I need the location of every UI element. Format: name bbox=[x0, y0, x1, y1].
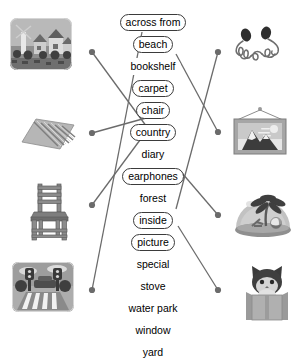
word-item-forest[interactable]: forest bbox=[134, 190, 172, 207]
framed-picture-photo[interactable] bbox=[228, 106, 292, 158]
word-item-across-from[interactable]: across from bbox=[120, 14, 187, 31]
crosswalk-photo[interactable] bbox=[12, 262, 74, 312]
word-item-picture[interactable]: picture bbox=[131, 234, 175, 251]
connector-dot-left-4[interactable] bbox=[89, 287, 95, 293]
cat-in-box-photo[interactable] bbox=[240, 262, 296, 324]
word-item-special[interactable]: special bbox=[131, 256, 176, 273]
connector-dot-left-3[interactable] bbox=[89, 202, 95, 208]
word-item-stove[interactable]: stove bbox=[134, 278, 171, 295]
word-list: across from beach bookshelf carpet chair… bbox=[103, 14, 203, 362]
connector-dot-left-1[interactable] bbox=[89, 49, 95, 55]
word-item-yard[interactable]: yard bbox=[137, 344, 169, 361]
connector-dot-right-2[interactable] bbox=[215, 129, 221, 135]
word-item-chair[interactable]: chair bbox=[136, 102, 171, 119]
country-village-photo[interactable] bbox=[10, 18, 72, 70]
word-item-inside[interactable]: inside bbox=[133, 212, 172, 229]
snow-globe-beach-photo[interactable] bbox=[232, 186, 294, 242]
connector-dot-right-4[interactable] bbox=[215, 287, 221, 293]
word-item-window[interactable]: window bbox=[129, 322, 176, 339]
word-item-carpet[interactable]: carpet bbox=[132, 80, 173, 97]
connector-dot-left-2[interactable] bbox=[89, 130, 95, 136]
word-item-water-park[interactable]: water park bbox=[122, 300, 183, 317]
wooden-chair-photo[interactable] bbox=[26, 182, 70, 242]
word-item-earphones[interactable]: earphones bbox=[122, 168, 184, 185]
word-item-bookshelf[interactable]: bookshelf bbox=[125, 58, 182, 75]
carpet-rug-photo[interactable] bbox=[20, 115, 76, 153]
connector-dot-right-1[interactable] bbox=[215, 49, 221, 55]
word-item-beach[interactable]: beach bbox=[133, 36, 174, 53]
earphones-photo[interactable] bbox=[228, 22, 294, 70]
word-item-diary[interactable]: diary bbox=[136, 146, 171, 163]
word-item-country[interactable]: country bbox=[130, 124, 176, 141]
connector-dot-right-3[interactable] bbox=[215, 212, 221, 218]
